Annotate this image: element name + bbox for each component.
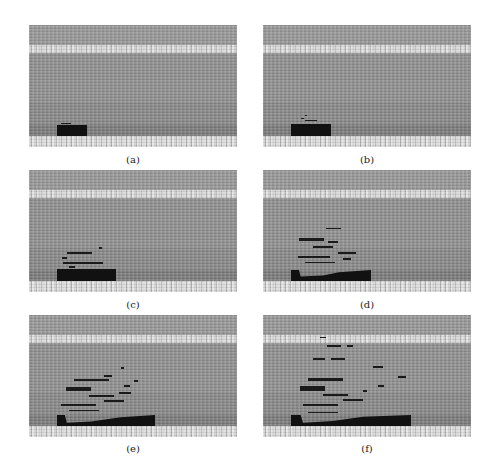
panel-e	[29, 315, 237, 437]
caption-c: (c)	[29, 299, 237, 310]
fire-region	[57, 125, 87, 136]
caption-b: (b)	[263, 154, 471, 165]
caption-a: (a)	[29, 154, 237, 165]
fire-region	[291, 124, 331, 136]
caption-e: (e)	[29, 443, 237, 454]
caption-f: (f)	[263, 443, 471, 454]
panel-a	[29, 25, 237, 147]
fire-region	[57, 269, 116, 281]
panel-b	[263, 25, 471, 147]
panel-f	[263, 315, 471, 437]
caption-d: (d)	[263, 299, 471, 310]
panel-c	[29, 170, 237, 292]
panel-d	[263, 170, 471, 292]
